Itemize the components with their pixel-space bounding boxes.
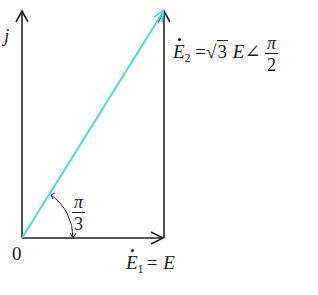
angle-denominator: 3 [74,213,83,233]
angle-numerator: π [72,193,85,213]
e1-subscript: 1 [138,262,144,276]
e2-angle-fraction: π 2 [265,34,278,74]
angle-arc [51,195,73,238]
angle-symbol-icon: ∠ [244,41,260,62]
e1-label: E1= E [126,253,175,275]
e1-symbol: E [126,253,138,272]
e2-subscript: 2 [185,51,191,65]
resultant-vector [22,12,163,238]
e1-equals: = E [146,252,175,273]
e2-angle-numerator: π [265,34,278,54]
imaginary-axis-label: j [4,26,9,45]
e2-sqrt: √3 [206,40,228,62]
e2-label: E2 =√3 E∠ π 2 [173,34,278,74]
e2-equals: = [195,41,206,62]
e2-angle-denominator: 2 [267,54,276,74]
origin-label: 0 [12,244,22,263]
e2-root-value: 3 [217,40,229,62]
angle-label: π 3 [72,193,85,233]
e2-magnitude-tail: E [233,41,245,62]
e2-symbol: E [173,42,185,61]
angle-fraction: π 3 [72,193,85,233]
